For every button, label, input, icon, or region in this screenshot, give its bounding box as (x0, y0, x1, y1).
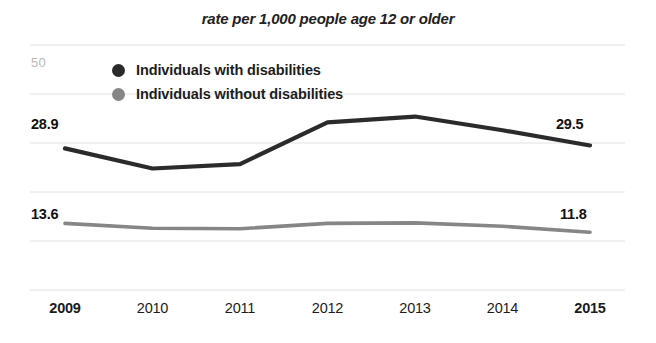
x-axis-tick-2015: 2015 (574, 300, 605, 316)
data-label-with-disabilities-start: 28.9 (31, 116, 58, 132)
legend-marker-dot-icon (112, 88, 125, 101)
legend-marker-dot-icon (112, 64, 125, 77)
legend-item-without-disabilities[interactable]: Individuals without disabilities (112, 82, 343, 106)
x-axis-tick-labels: 2009201020112012201320142015 (0, 300, 656, 324)
chart-legend: Individuals with disabilities Individual… (112, 58, 343, 106)
x-axis-tick-2014: 2014 (487, 300, 518, 316)
data-label-without-disabilities-start: 13.6 (31, 206, 58, 222)
legend-item-with-disabilities[interactable]: Individuals with disabilities (112, 58, 343, 82)
chart-figure: rate per 1,000 people age 12 or older 50… (0, 0, 656, 343)
x-axis-tick-2010: 2010 (137, 300, 168, 316)
series-line-1 (65, 223, 590, 232)
x-axis-tick-2013: 2013 (399, 300, 430, 316)
plot-area (0, 0, 656, 343)
x-axis-tick-2012: 2012 (312, 300, 343, 316)
series-lines-group (65, 117, 590, 233)
legend-label-with-disabilities: Individuals with disabilities (136, 62, 321, 78)
data-label-with-disabilities-end: 29.5 (556, 116, 583, 132)
legend-label-without-disabilities: Individuals without disabilities (136, 86, 343, 102)
data-label-without-disabilities-end: 11.8 (560, 206, 587, 222)
x-axis-tick-2009: 2009 (49, 300, 80, 316)
x-axis-tick-2011: 2011 (225, 300, 255, 316)
